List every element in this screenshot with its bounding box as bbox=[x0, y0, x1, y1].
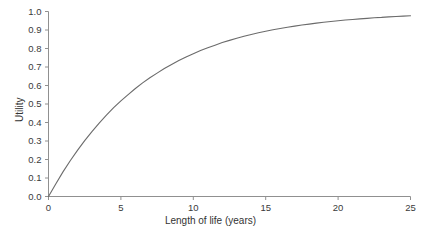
x-axis-ticks bbox=[49, 197, 411, 201]
x-tick-label: 15 bbox=[246, 203, 286, 213]
x-axis-title: Length of life (years) bbox=[0, 215, 421, 226]
y-tick-label: 1.0 bbox=[28, 7, 41, 17]
x-axis-group bbox=[49, 197, 411, 201]
chart-figure: 0.00.10.20.30.40.50.60.70.80.91.0 051015… bbox=[0, 0, 421, 236]
utility-curve-line bbox=[49, 16, 411, 197]
x-tick-label: 25 bbox=[391, 203, 421, 213]
y-tick-label: 0.4 bbox=[28, 118, 41, 128]
y-axis-title: Utility bbox=[14, 98, 25, 122]
y-tick-label: 0.6 bbox=[28, 81, 41, 91]
y-tick-label: 0.2 bbox=[28, 155, 41, 165]
y-tick-label: 0.0 bbox=[28, 192, 41, 202]
y-tick-label: 0.8 bbox=[28, 44, 41, 54]
x-tick-label: 10 bbox=[173, 203, 213, 213]
x-tick-label: 5 bbox=[101, 203, 141, 213]
y-axis-ticks bbox=[45, 12, 49, 197]
y-axis-group bbox=[45, 12, 49, 197]
y-tick-label: 0.1 bbox=[28, 173, 41, 183]
y-tick-label: 0.9 bbox=[28, 25, 41, 35]
utility-curve-plot bbox=[0, 0, 421, 236]
y-tick-label: 0.3 bbox=[28, 136, 41, 146]
x-tick-label: 0 bbox=[29, 203, 69, 213]
y-tick-label: 0.7 bbox=[28, 62, 41, 72]
y-tick-label: 0.5 bbox=[28, 99, 41, 109]
x-tick-label: 20 bbox=[318, 203, 358, 213]
